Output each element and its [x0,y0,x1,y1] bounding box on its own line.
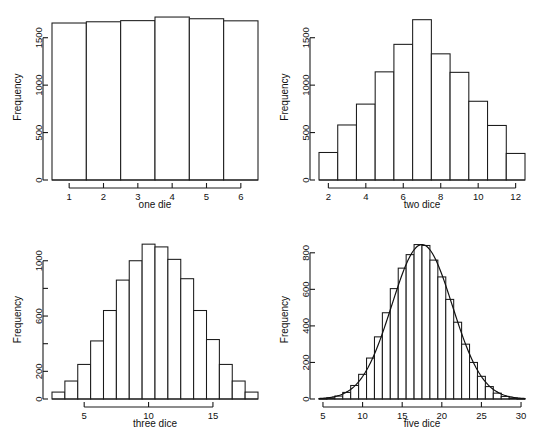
histogram-bar [104,311,117,399]
histogram-bar [52,392,65,399]
histogram-bar [431,54,450,180]
five-dice-histogram-plot: 0200400600800Frequency51015202530five di… [267,222,534,445]
histogram-bar [450,72,469,180]
histogram-bar [414,245,422,399]
y-axis-tick-label: 1000 [300,75,311,96]
histogram-bar [394,44,413,180]
panel-three-dice: 02006001000Frequency51015three dice [0,222,267,445]
histogram-bar [398,268,406,399]
y-axis-title: Frequency [279,296,290,343]
panel-five-dice: 0200400600800Frequency51015202530five di… [267,222,534,445]
histogram-bar [219,364,232,399]
histogram-bar [446,299,454,399]
x-axis-tick-label: 6 [238,191,243,202]
histogram-bar [121,21,155,180]
histogram-bar [232,381,245,399]
histogram-bars [52,17,258,180]
histogram-bar [78,364,91,399]
histogram-bar [351,385,359,399]
histogram-bar [155,17,189,180]
x-axis-tick-label: 10 [473,191,484,202]
y-axis-tick-label: 600 [300,281,311,297]
one-die-histogram-plot: 050010001500Frequency123456one die [0,0,267,222]
y-axis-tick-label: 500 [300,125,311,141]
y-axis-tick-label: 400 [300,318,311,334]
y-axis-title: Frequency [279,73,290,120]
y-axis-tick-label: 0 [33,396,44,401]
histogram-bar [86,22,120,180]
histogram-bar [142,244,155,399]
panel-two-dice: 050010001500Frequency24681012two dice [267,0,534,222]
x-axis-tick-label: 5 [82,410,87,421]
x-axis-tick-label: 2 [101,191,106,202]
y-axis-tick-label: 1000 [33,75,44,96]
x-axis-title: five dice [404,418,441,429]
x-axis-tick-label: 30 [516,410,527,421]
x-axis-tick-label: 25 [476,410,487,421]
y-axis-tick-label: 1500 [300,27,311,48]
x-axis-tick-label: 2 [326,191,331,202]
histogram-bar [367,358,375,399]
two-dice-histogram-plot: 050010001500Frequency24681012two dice [267,0,534,222]
x-axis-title: three dice [133,418,177,429]
histogram-bar [155,247,168,399]
histogram-bar [356,104,375,180]
y-axis-tick-label: 200 [300,355,311,371]
y-axis-tick-label: 0 [33,177,44,182]
y-axis-tick-label: 1000 [33,250,44,271]
histogram-bar [374,337,382,399]
histogram-bar [168,259,181,399]
histogram-bar [375,72,394,180]
x-axis-tick-label: 12 [510,191,521,202]
histogram-bar [319,152,338,180]
histogram-bar [382,313,390,399]
histogram-bar [488,125,507,180]
histogram-bar [338,125,357,180]
histogram-bar [224,21,258,180]
y-axis-tick-label: 600 [33,308,44,324]
y-axis-tick-label: 500 [33,125,44,141]
x-axis-tick-label: 15 [208,410,219,421]
histogram-bar [207,340,220,399]
x-axis-tick-label: 1 [67,191,72,202]
histogram-bars [52,244,258,399]
histogram-bar [91,341,104,399]
histogram-bar [454,322,462,399]
dice-sums-histogram-figure: 050010001500Frequency123456one die 05001… [0,0,534,445]
histogram-bar [506,153,525,180]
histogram-bar [245,392,258,399]
panel-one-die: 050010001500Frequency123456one die [0,0,267,222]
y-axis-tick-label: 800 [300,245,311,261]
histogram-bar [469,101,488,180]
y-axis-tick-label: 0 [300,177,311,182]
histogram-bar [438,277,446,399]
histogram-bar [189,19,223,180]
histogram-bar [129,261,142,399]
histogram-bars [319,245,525,400]
x-axis-tick-label: 5 [320,410,325,421]
three-dice-histogram-plot: 02006001000Frequency51015three dice [0,222,267,445]
histogram-bar [52,23,86,180]
y-axis-tick-label: 1500 [33,27,44,48]
y-axis-tick-label: 0 [300,396,311,401]
histogram-bar [65,381,78,399]
x-axis-title: one die [139,199,172,210]
y-axis-title: Frequency [12,296,23,343]
x-axis-tick-label: 4 [363,191,368,202]
histogram-bar [194,311,207,399]
histogram-bar [430,260,438,399]
y-axis-title: Frequency [12,73,23,120]
histogram-bar [116,280,129,399]
x-axis-title: two dice [404,199,441,210]
histogram-bar [181,279,194,399]
x-axis-tick-label: 10 [357,410,368,421]
histogram-bar [422,245,430,399]
histogram-bar [359,374,367,399]
y-axis-tick-label: 200 [33,363,44,379]
histogram-bar [406,255,414,399]
histogram-bars [319,20,525,180]
histogram-bar [413,20,432,180]
x-axis-tick-label: 5 [204,191,209,202]
